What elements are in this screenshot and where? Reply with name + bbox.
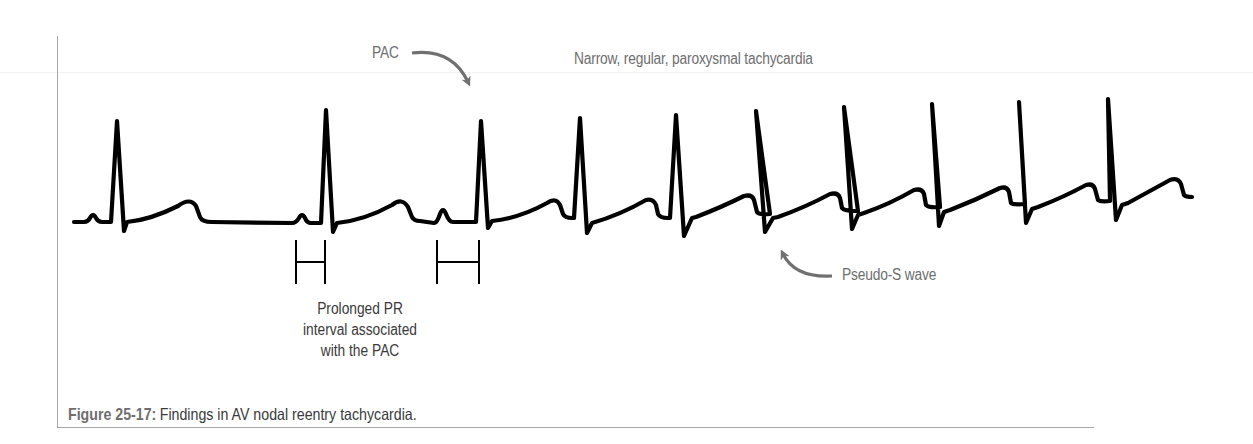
pseudo-s-arrow-icon bbox=[783, 254, 832, 276]
figure-caption: Figure 25-17:Findings in AV nodal reentr… bbox=[68, 405, 417, 424]
pac-label: PAC bbox=[372, 44, 399, 62]
pr-interval-marker-prolonged bbox=[437, 240, 479, 284]
pac-arrow-icon bbox=[412, 52, 468, 82]
pr-interval-marker-normal bbox=[296, 240, 325, 284]
prolonged-pr-note: Prolonged PR interval associated with th… bbox=[278, 298, 441, 361]
prolonged-pr-line-2: interval associated bbox=[278, 319, 441, 340]
ecg-trace bbox=[74, 99, 1192, 236]
figure-number: Figure 25-17: bbox=[68, 405, 156, 423]
pseudo-s-wave-label: Pseudo-S wave bbox=[842, 266, 936, 284]
prolonged-pr-line-3: with the PAC bbox=[278, 340, 441, 361]
prolonged-pr-line-1: Prolonged PR bbox=[278, 298, 441, 319]
figure-caption-text: Findings in AV nodal reentry tachycardia… bbox=[160, 405, 417, 423]
tachycardia-label: Narrow, regular, paroxysmal tachycardia bbox=[574, 50, 813, 68]
